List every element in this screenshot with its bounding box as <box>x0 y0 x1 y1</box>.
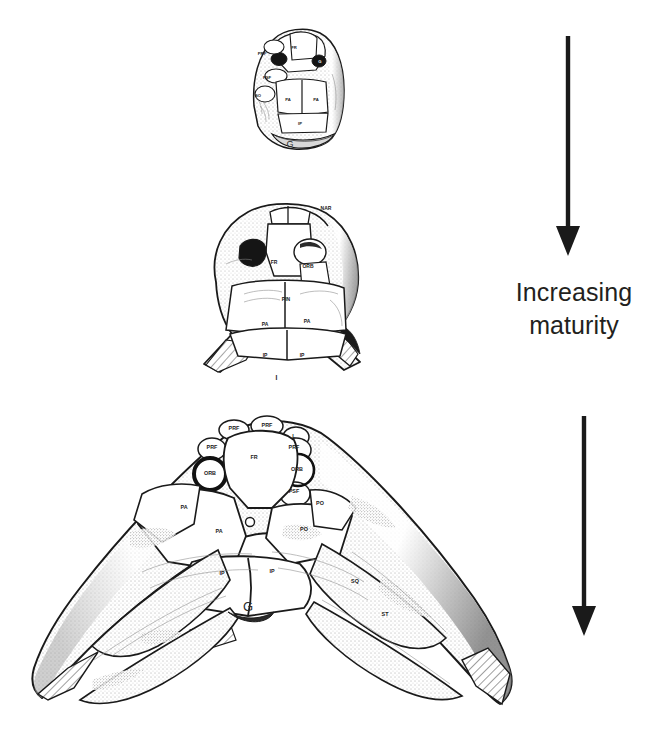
plate-label-orb-2: ORB <box>302 263 314 269</box>
plate-label-prf-3: PRF <box>207 444 218 450</box>
caption-line-2: maturity <box>494 309 654 342</box>
plate-label-fr-4: FR <box>250 454 257 460</box>
plate-label-pa-6: PA <box>313 97 319 102</box>
plate-label-st-16: ST <box>382 611 390 617</box>
plate-label-sq-15: SQ <box>351 578 359 584</box>
subadult-skull-drawing: NAR FR ORB PIN PA PA IP IP L <box>160 190 410 380</box>
plate-label-orb-6: ORB <box>204 470 216 476</box>
plate-label-prf-5: PRF <box>289 444 300 450</box>
plate-label-fr-1: FR <box>271 259 278 265</box>
specimen-subadult-illustration: NAR FR ORB PIN PA PA IP IP L <box>160 190 410 380</box>
juvenile-specimen-letter: G <box>286 139 293 149</box>
plate-label-prf-0: PRF <box>258 51 267 56</box>
down-arrow-icon <box>548 34 592 258</box>
plate-label-psf-3: PSF <box>263 75 272 80</box>
plate-label-psf-8: PSF <box>289 488 300 494</box>
subadult-specimen-letter: L <box>275 373 281 380</box>
plate-label-nar-0: NAR <box>321 205 332 211</box>
plate-label-ip-13: IP <box>219 570 224 576</box>
increasing-maturity-arrow-lower <box>564 414 608 638</box>
increasing-maturity-arrow-upper <box>548 34 592 258</box>
plate-label-pin-3: PIN <box>282 296 291 302</box>
plate-label-pa-11: PA <box>215 528 222 534</box>
specimen-juvenile-illustration: PRF FR G PSF SO PA PA IP G <box>232 14 362 154</box>
down-arrow-icon <box>564 414 608 638</box>
plate-label-pa-5: PA <box>304 318 311 324</box>
plate-label-ip-6: IP <box>263 352 268 358</box>
plate-label-orb-7: ORB <box>291 466 303 472</box>
specimen-mature-illustration: PRF PRF L PRF FR PRF ORB ORB PSF PA PO P… <box>22 412 522 717</box>
plate-label-fr-1: FR <box>291 45 297 50</box>
plate-label-ip-7: IP <box>298 121 302 126</box>
plate-label-pa-5: PA <box>285 97 291 102</box>
plate-label-pa-4: PA <box>262 321 269 327</box>
mature-specimen-letter: G <box>243 599 253 614</box>
caption-line-1: Increasing <box>494 276 654 309</box>
plate-label-prf-0: PRF <box>229 425 240 431</box>
plate-label-ip-14: IP <box>269 568 274 574</box>
plate-label-so-4: SO <box>255 93 262 98</box>
juvenile-skull-drawing: PRF FR G PSF SO PA PA IP G <box>232 14 362 154</box>
plate-label-po-12: PO <box>300 526 308 532</box>
plate-label-g-2: G <box>318 59 321 64</box>
mature-skull-drawing: PRF PRF L PRF FR PRF ORB ORB PSF PA PO P… <box>22 412 522 717</box>
plate-label-ip-7: IP <box>300 352 305 358</box>
plate-label-pa-9: PA <box>180 504 187 510</box>
plate-label-prf-1: PRF <box>262 422 273 428</box>
figure-root: PRF FR G PSF SO PA PA IP G <box>0 0 656 735</box>
plate-label-po-10: PO <box>316 500 324 506</box>
increasing-maturity-caption: Increasing maturity <box>494 276 654 342</box>
